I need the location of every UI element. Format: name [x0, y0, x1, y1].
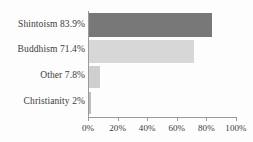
x-tick-mark	[88, 117, 89, 121]
bar-shintoism	[88, 13, 212, 37]
x-axis-line	[88, 117, 236, 118]
x-tick-mark	[147, 117, 148, 121]
category-label-shintoism: Shintoism 83.9%	[0, 19, 85, 29]
x-tick-mark	[236, 117, 237, 121]
bar-chart: Shintoism 83.9% Buddhism 71.4% Other 7.8…	[0, 0, 253, 142]
x-tick-label: 40%	[139, 123, 156, 133]
plot-area	[88, 11, 236, 116]
x-tick-mark	[177, 117, 178, 121]
x-tick-label: 80%	[198, 123, 215, 133]
x-tick-label: 20%	[109, 123, 126, 133]
category-axis-labels: Shintoism 83.9% Buddhism 71.4% Other 7.8…	[0, 11, 85, 116]
x-tick-mark	[206, 117, 207, 121]
category-label-other: Other 7.8%	[0, 70, 85, 80]
y-axis-line	[88, 11, 89, 117]
category-label-buddhism: Buddhism 71.4%	[0, 44, 85, 54]
bar-buddhism	[88, 40, 194, 63]
bar-other	[88, 66, 100, 88]
x-tick-label: 100%	[225, 123, 246, 133]
x-tick-label: 60%	[168, 123, 185, 133]
category-label-christianity: Christianity 2%	[0, 96, 85, 106]
x-tick-label: 0%	[82, 123, 94, 133]
x-tick-mark	[118, 117, 119, 121]
